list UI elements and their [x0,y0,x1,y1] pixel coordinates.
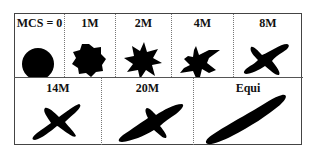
rod-shape-icon [194,78,302,145]
elongated-branch-shape-icon [102,78,193,145]
four-arm-shape-icon [234,14,302,77]
rounded-star-shape-icon [65,14,115,77]
panel-4m: 4M [172,14,233,77]
panel-20m: 20M [102,78,193,145]
spiky-star-shape-icon [172,14,233,77]
panel-2m: 2M [116,14,171,77]
thin-four-arm-shape-icon [15,78,101,145]
panel-8m: 8M [234,14,302,77]
panel-14m: 14M [15,78,101,145]
panel-equi: Equi [194,78,302,145]
panel-mcs-0: MCS = 0 [15,14,64,77]
circle-shape-icon [15,14,64,77]
panel-1m: 1M [65,14,115,77]
star-shape-icon [116,14,171,77]
